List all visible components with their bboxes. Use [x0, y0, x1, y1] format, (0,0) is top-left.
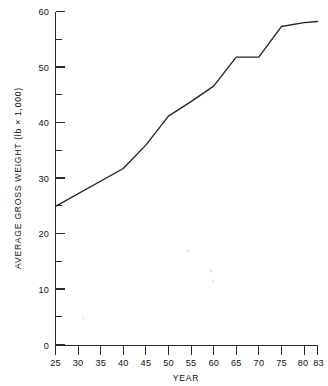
x-tick-label-75: 75	[276, 358, 287, 368]
x-tick-label-80: 80	[298, 358, 309, 368]
line-chart: 60 50 40 30 20 10 0 AVERAGE GROSS WEIGHT…	[0, 0, 328, 386]
y-tick-label-20: 20	[38, 229, 49, 239]
x-tick-label-60: 60	[208, 358, 219, 368]
x-tick-label-25: 25	[50, 358, 61, 368]
y-tick-label-60: 60	[38, 7, 49, 17]
x-tick-label-70: 70	[254, 358, 265, 368]
x-tick-label-30: 30	[73, 358, 84, 368]
y-tick-label-40: 40	[38, 118, 49, 128]
y-tick-label-30: 30	[38, 174, 49, 184]
y-tick-label-0: 0	[44, 341, 49, 351]
x-axis-title: YEAR	[173, 373, 199, 383]
x-tick-label-55: 55	[186, 358, 197, 368]
x-tick-label-50: 50	[163, 358, 174, 368]
y-tick-label-50: 50	[38, 63, 49, 73]
chart-background	[0, 0, 328, 386]
chart-figure: 60 50 40 30 20 10 0 AVERAGE GROSS WEIGHT…	[0, 0, 328, 386]
x-tick-label-45: 45	[141, 358, 152, 368]
y-axis-title: AVERAGE GROSS WEIGHT (lb × 1,000)	[13, 87, 23, 269]
x-tick-label-65: 65	[231, 358, 242, 368]
x-tick-label-35: 35	[95, 358, 106, 368]
y-tick-label-10: 10	[38, 285, 49, 295]
x-tick-label-40: 40	[118, 358, 129, 368]
x-tick-label-83: 83	[313, 358, 324, 368]
